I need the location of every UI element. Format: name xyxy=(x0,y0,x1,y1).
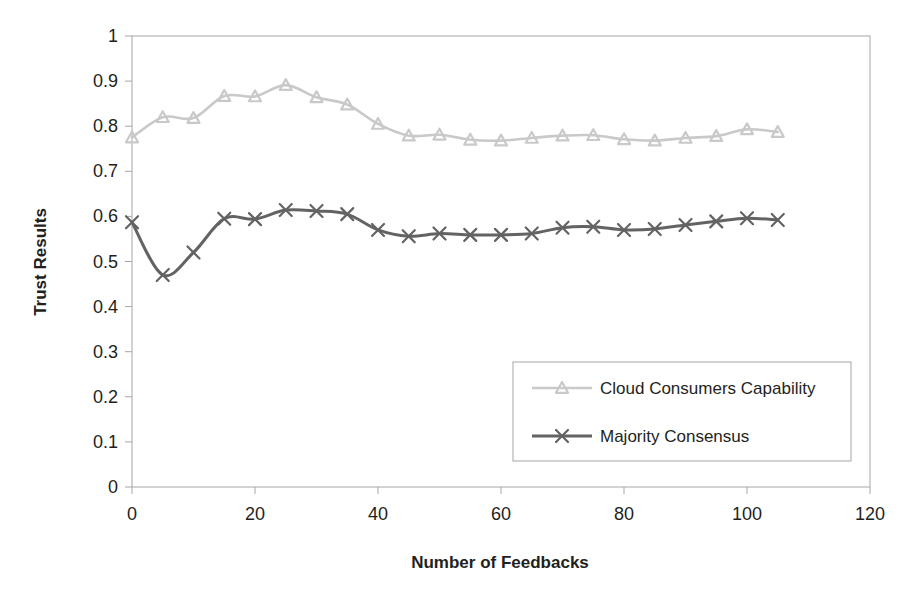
y-tick-label: 0.7 xyxy=(93,161,118,181)
x-tick-label: 100 xyxy=(732,504,762,524)
x-axis-tick-labels: 020406080100120 xyxy=(127,504,885,524)
x-tick-label: 60 xyxy=(491,504,511,524)
x-axis-title: Number of Feedbacks xyxy=(411,553,589,572)
legend-box xyxy=(513,362,851,461)
y-tick-label: 0.2 xyxy=(93,387,118,407)
chart-legend: Cloud Consumers Capability Majority Cons… xyxy=(513,362,851,461)
y-tick-label: 0.9 xyxy=(93,71,118,91)
x-tick-label: 120 xyxy=(855,504,885,524)
y-axis-title: Trust Results xyxy=(31,208,50,316)
data-point-marker xyxy=(218,213,230,225)
y-tick-label: 0.3 xyxy=(93,342,118,362)
x-tick-label: 20 xyxy=(245,504,265,524)
x-tick-label: 40 xyxy=(368,504,388,524)
y-tick-label: 0.6 xyxy=(93,206,118,226)
y-tick-label: 0.8 xyxy=(93,116,118,136)
series-2 xyxy=(126,204,784,281)
legend-label-0: Cloud Consumers Capability xyxy=(600,379,816,398)
x-axis-ticks xyxy=(132,487,870,494)
x-tick-label: 80 xyxy=(614,504,634,524)
series-layer xyxy=(126,79,784,281)
series-line xyxy=(132,85,778,141)
y-tick-label: 0.5 xyxy=(93,252,118,272)
y-axis-tick-labels: 00.10.20.30.40.50.60.70.80.91 xyxy=(93,26,118,497)
y-tick-label: 1 xyxy=(108,26,118,46)
line-chart: 00.10.20.30.40.50.60.70.80.91 0204060801… xyxy=(0,0,914,593)
x-tick-label: 0 xyxy=(127,504,137,524)
data-point-marker xyxy=(188,246,200,258)
series-1 xyxy=(126,79,784,145)
y-axis-ticks xyxy=(125,36,132,487)
legend-label-1: Majority Consensus xyxy=(600,427,749,446)
y-tick-label: 0 xyxy=(108,477,118,497)
y-tick-label: 0.4 xyxy=(93,297,118,317)
chart-container: 00.10.20.30.40.50.60.70.80.91 0204060801… xyxy=(0,0,914,593)
y-tick-label: 0.1 xyxy=(93,432,118,452)
